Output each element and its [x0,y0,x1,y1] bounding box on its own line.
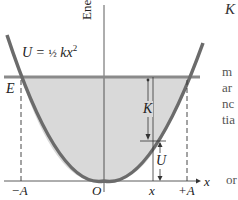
neg-amplitude-label: −A [11,183,28,199]
curve-label: U = ½ kx2 [22,43,77,61]
x-axis-arrowhead [196,179,201,184]
energy-level-label: E [6,81,15,97]
curve-label-frac: ½ [49,47,57,59]
side-text-line-2: ar [222,80,232,96]
x-axis-label: x [204,174,210,190]
energy-diagram [0,0,238,200]
curve-label-rhs: kx [57,45,73,60]
pos-amplitude-label: +A [178,183,195,199]
potential-label: U [155,153,167,169]
curve-label-lhs: U = [22,45,49,60]
kinetic-arrow-top-dot [147,79,150,82]
side-text-line-5: or [226,172,237,188]
kinetic-label: K [142,101,153,117]
curve-label-exp: 2 [73,43,78,53]
side-text-line-3: nc [222,96,234,112]
side-text-line-1: m [222,64,232,80]
y-axis-label: Energy [79,0,95,20]
potential-arrow-head-bottom [158,176,163,181]
side-text-top: K [225,1,235,18]
x-position-label: x [149,183,155,199]
origin-label: O [92,183,101,199]
side-text-line-4: tia [222,112,235,128]
